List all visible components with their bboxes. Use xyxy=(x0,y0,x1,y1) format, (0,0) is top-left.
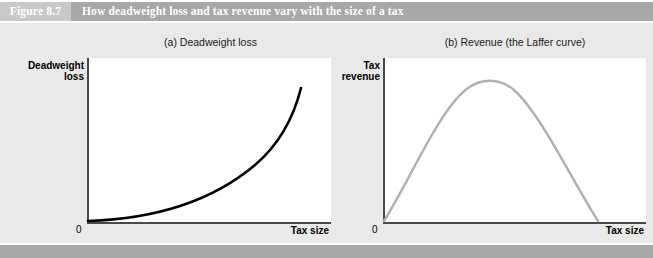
panel-a-y-axis-label: Deadweight loss xyxy=(10,60,84,82)
panel-a-x-axis-label: Tax size xyxy=(241,225,329,236)
figure-number-label: Figure 8.7 xyxy=(0,2,71,21)
figure-title-text: How deadweight loss and tax revenue vary… xyxy=(82,2,647,21)
panel-a-plot-area xyxy=(88,58,331,223)
panel-b-x-axis-label: Tax size xyxy=(556,225,644,236)
panel-a-origin-label: 0 xyxy=(76,224,82,235)
panel-b-y-axis-label: Tax revenue xyxy=(326,60,380,82)
panel-b-origin-label: 0 xyxy=(372,224,378,235)
panel-a-y-axis xyxy=(87,58,89,223)
figure-container: Figure 8.7 How deadweight loss and tax r… xyxy=(0,0,653,258)
panel-b-x-axis xyxy=(383,222,646,224)
panel-a-caption: (a) Deadweight loss xyxy=(88,36,333,48)
panel-b-caption: (b) Revenue (the Laffer curve) xyxy=(384,36,646,48)
panel-b-y-axis xyxy=(383,58,385,223)
panel-b-plot-area xyxy=(384,58,646,223)
panel-a-x-axis xyxy=(87,222,331,224)
figure-footer-bar xyxy=(0,245,653,258)
figure-header: Figure 8.7 How deadweight loss and tax r… xyxy=(0,0,653,21)
